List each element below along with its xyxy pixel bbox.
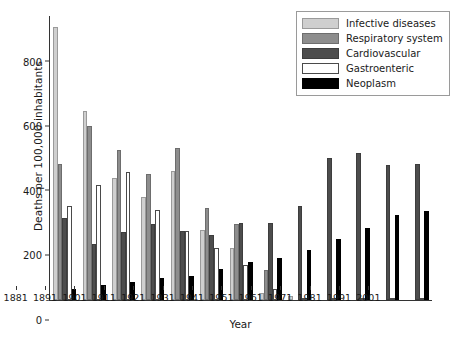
legend-swatch-icon	[302, 48, 339, 59]
legend-item[interactable]: Infective diseases	[302, 16, 443, 31]
x-tick-label: 1991	[324, 292, 353, 303]
x-tick-1961: 1961	[236, 286, 265, 303]
x-tick-1931: 1931	[148, 286, 177, 303]
legend-item[interactable]: Neoplasm	[302, 76, 443, 91]
x-tick-2001: 2001	[354, 286, 383, 303]
y-tick-label: 0	[36, 315, 42, 326]
x-tick-1901: 1901	[60, 286, 89, 303]
x-tick-1941: 1941	[177, 286, 206, 303]
y-tick-200: 200	[23, 245, 49, 264]
y-tick-mark	[45, 61, 49, 62]
bar-group	[168, 16, 197, 300]
legend-swatch-icon	[302, 18, 339, 29]
bar-group	[50, 16, 79, 300]
x-tick-label: 1921	[119, 292, 148, 303]
x-tick-label: 1931	[148, 292, 177, 303]
legend-label: Infective diseases	[346, 18, 436, 29]
bar	[424, 211, 429, 300]
x-tick-label: 1891	[30, 292, 59, 303]
x-tick-mark	[192, 286, 193, 290]
x-tick-label: 1941	[177, 292, 206, 303]
legend-swatch-icon	[302, 63, 339, 74]
x-tick-mark	[251, 286, 252, 290]
x-tick-1971: 1971	[266, 286, 295, 303]
x-tick-label: 1881	[1, 292, 30, 303]
x-tick-1981: 1981	[295, 286, 324, 303]
x-tick-1911: 1911	[89, 286, 118, 303]
bar-group	[256, 16, 285, 300]
bar	[356, 153, 361, 300]
bar	[386, 165, 391, 300]
y-tick-0: 0	[36, 310, 49, 329]
x-tick-label: 1911	[89, 292, 118, 303]
x-tick-mark	[16, 286, 17, 290]
x-tick-mark	[163, 286, 164, 290]
bar-group	[109, 16, 138, 300]
x-tick-label: 1951	[207, 292, 236, 303]
x-tick-1921: 1921	[119, 286, 148, 303]
y-tick-800: 800	[23, 51, 49, 70]
legend-item[interactable]: Gastroenteric	[302, 61, 443, 76]
x-tick-mark	[45, 286, 46, 290]
y-tick-mark	[45, 190, 49, 191]
x-tick-mark	[221, 286, 222, 290]
x-axis-label: Year	[49, 318, 432, 330]
x-tick-mark	[104, 286, 105, 290]
y-tick-label: 800	[23, 56, 42, 67]
y-tick-label: 200	[23, 250, 42, 261]
x-tick-mark	[133, 286, 134, 290]
x-tick-mark	[280, 286, 281, 290]
x-tick-label: 1971	[266, 292, 295, 303]
legend-swatch-icon	[302, 78, 339, 89]
x-tick-label: 2001	[354, 292, 383, 303]
bar-group	[138, 16, 167, 300]
bar-group	[79, 16, 108, 300]
legend-label: Gastroenteric	[346, 63, 414, 74]
x-axis-ticks: 1881189119011911192119311941195119611971…	[1, 286, 383, 303]
bar	[126, 172, 131, 300]
x-tick-label: 1981	[295, 292, 324, 303]
chart-legend: Infective diseasesRespiratory systemCard…	[296, 11, 450, 96]
y-tick-600: 600	[23, 116, 49, 135]
x-tick-mark	[368, 286, 369, 290]
bar	[96, 185, 101, 300]
bar	[395, 215, 400, 300]
legend-item[interactable]: Respiratory system	[302, 31, 443, 46]
x-tick-label: 1961	[236, 292, 265, 303]
y-tick-mark	[45, 254, 49, 255]
y-tick-mark	[45, 125, 49, 126]
legend-swatch-icon	[302, 33, 339, 44]
x-tick-1951: 1951	[207, 286, 236, 303]
legend-label: Neoplasm	[346, 78, 396, 89]
y-tick-400: 400	[23, 180, 49, 199]
y-tick-label: 400	[23, 185, 42, 196]
x-tick-1991: 1991	[324, 286, 353, 303]
bar-group	[226, 16, 255, 300]
legend-label: Respiratory system	[346, 33, 443, 44]
x-tick-1891: 1891	[30, 286, 59, 303]
bar-group	[197, 16, 226, 300]
legend-item[interactable]: Cardiovascular	[302, 46, 443, 61]
bar	[415, 164, 420, 300]
x-tick-mark	[310, 286, 311, 290]
legend-label: Cardiovascular	[346, 48, 420, 59]
x-tick-label: 1901	[60, 292, 89, 303]
x-tick-mark	[339, 286, 340, 290]
x-tick-1881: 1881	[1, 286, 30, 303]
bar	[327, 158, 332, 300]
x-tick-mark	[74, 286, 75, 290]
y-tick-label: 600	[23, 121, 42, 132]
